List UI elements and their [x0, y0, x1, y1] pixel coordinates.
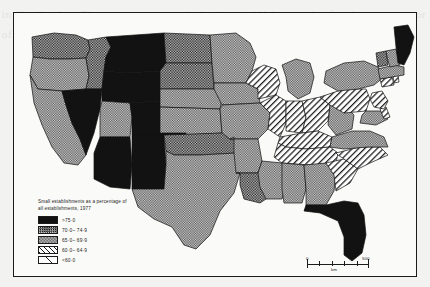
- state-wyoming: [102, 71, 160, 103]
- legend-label-class-5: <60·0: [62, 258, 75, 263]
- state-missouri: [220, 103, 270, 139]
- legend-item: 65·0– 69·9: [38, 236, 153, 245]
- state-kentucky: [278, 131, 332, 149]
- legend-swatch-class-3: [38, 236, 58, 244]
- state-newjersey: [370, 91, 388, 109]
- legend-item: >75·0: [38, 216, 153, 225]
- state-michigan: [282, 59, 314, 99]
- scale-bar-unit-label: km: [331, 267, 337, 272]
- state-southdakota: [160, 63, 214, 89]
- scale-bar-end-label: 500: [362, 256, 369, 261]
- legend-swatch-class-5: [38, 256, 58, 264]
- legend-title: Small establishments as a percentage of …: [38, 199, 130, 212]
- scale-bar-tick: [319, 261, 320, 267]
- scale-bar-line: [307, 264, 369, 265]
- scale-bar-tick: [332, 261, 333, 267]
- legend-swatch-class-4: [38, 246, 58, 254]
- state-newmexico: [132, 135, 166, 189]
- state-arizona: [94, 137, 132, 189]
- state-washington: [32, 33, 90, 59]
- scale-bar-tick: [344, 261, 345, 267]
- state-minnesota: [210, 33, 256, 83]
- state-ohio: [302, 97, 330, 133]
- legend-item: 60·0– 64·9: [38, 246, 153, 255]
- legend-label-class-3: 65·0– 69·9: [62, 238, 87, 243]
- state-northdakota: [164, 33, 212, 63]
- state-oregon: [30, 57, 89, 91]
- map-legend: Small establishments as a percentage of …: [38, 199, 153, 266]
- state-utah: [100, 101, 132, 137]
- state-florida: [304, 201, 366, 261]
- legend-swatch-class-2: [38, 226, 58, 234]
- map-figure-frame: Small establishments as a percentage of …: [13, 12, 417, 277]
- legend-label-class-1: >75·0: [62, 218, 75, 223]
- legend-item: 70·0– 74·9: [38, 226, 153, 235]
- legend-label-class-4: 60·0– 64·9: [62, 248, 87, 253]
- state-nebraska: [160, 89, 222, 109]
- legend-label-class-2: 70·0– 74·9: [62, 228, 87, 233]
- state-kansas: [160, 107, 222, 135]
- scale-bar-tick: [357, 261, 358, 267]
- scale-bar-start-label: 0: [306, 256, 308, 261]
- legend-item: <60·0: [38, 256, 153, 265]
- state-oklahoma: [164, 133, 236, 155]
- state-newyork: [324, 61, 384, 91]
- state-alabama: [282, 163, 306, 203]
- state-montana: [104, 33, 166, 73]
- legend-swatch-class-1: [38, 216, 58, 224]
